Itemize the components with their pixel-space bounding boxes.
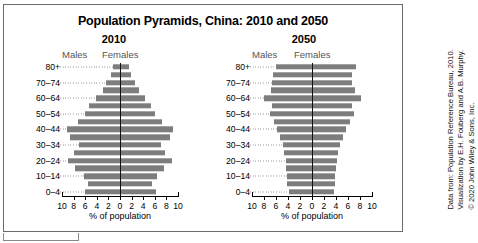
x-axis-tick [360,196,361,200]
bar-male [113,64,120,69]
source-credit: Data from: Population Reference Bureau, … [408,0,474,243]
age-group-label: 0–4 [46,187,60,197]
bar-male [286,166,312,171]
bar-female [312,174,335,179]
bar-female [120,150,165,155]
x-axis-tick [324,196,325,200]
age-label-row: 50–54 [204,110,252,118]
legend-females-2050: Females [294,49,330,60]
age-label-row: 10–14 [204,172,252,180]
x-axis-tick-label: 6 [346,201,351,211]
x-axis-tick-label: 2 [129,201,134,211]
page-corner-tab [3,233,79,241]
x-axis-tick-label: 0 [310,201,315,211]
credit-line-1: Data from: Population Reference Bureau, … [446,0,456,210]
bar-female [312,72,352,77]
bar-male [96,95,120,100]
bar-female [312,95,361,100]
bar-female [312,119,350,124]
x-axis-tick-label: 2 [322,201,327,211]
bar-female [120,103,151,108]
bar-male [70,135,120,140]
x-axis-tick [166,196,167,200]
age-label-row: 70–74 [10,79,62,87]
pyramid-panel-2050: 2050 Males Females 80+70–7460–6450–5440–… [204,33,400,229]
x-axis-tick-label: 8 [262,201,267,211]
x-axis-tick [143,196,144,200]
bar-male [264,95,312,100]
bar-male [79,142,120,147]
age-label-row: 30–34 [204,141,252,149]
bar-male [271,88,312,93]
sex-legend-2010: Males Females [10,49,206,61]
bar-female [312,103,352,108]
age-label-row: 70–74 [204,79,252,87]
x-axis-tick [74,196,75,200]
bar-female [312,127,346,132]
x-axis-tick-label: 8 [71,201,76,211]
age-axis-2050: 80+70–7460–6450–5440–4430–3420–2410–140–… [204,63,252,196]
bar-female [120,111,155,116]
bar-male [103,88,120,93]
bar-male [277,127,312,132]
bar-female [312,158,337,163]
panel-year-2050: 2050 [204,33,402,45]
bar-male [85,111,120,116]
x-axis-tick [372,192,373,197]
figure-frame: Population Pyramids, China: 2010 and 205… [3,4,403,232]
bar-male [272,80,312,85]
x-axis-tick [97,196,98,200]
age-label-row: 60–64 [204,94,252,102]
age-label-row: 0–4 [10,188,62,196]
age-label-row: 50–54 [10,110,62,118]
x-axis-tick-label: 4 [334,201,339,211]
age-label-row: 20–24 [204,157,252,165]
bar-female [312,80,352,85]
age-group-label: 0–4 [236,187,250,197]
bar-female [120,181,152,186]
age-label-row: 0–4 [204,188,252,196]
x-axis-tick-label: 10 [247,201,257,211]
x-axis-tick [300,196,301,200]
age-label-row: 80+ [204,63,252,71]
center-axis-2010 [120,63,121,196]
x-axis-tick-label: 6 [274,201,279,211]
x-axis-tick-label: 4 [94,201,99,211]
bar-female [120,72,131,77]
x-axis-tick-label: 8 [358,201,363,211]
bar-female [120,95,145,100]
x-axis-tick [155,196,156,200]
x-axis-tick-label: 4 [141,201,146,211]
bar-male [88,181,120,186]
bar-male [283,142,312,147]
x-axis-tick [288,196,289,200]
x-axis-tick-label: 2 [106,201,111,211]
bar-male [276,64,312,69]
x-axis-tick [120,196,121,200]
bar-female [312,150,338,155]
x-axis-tick-label: 10 [57,201,67,211]
x-axis-tick-label: 8 [164,201,169,211]
bar-female [312,64,356,69]
x-axis-tick [348,196,349,200]
age-axis-2010: 80+70–7460–6450–5440–4430–3420–2410–140–… [10,63,62,196]
bar-female [120,189,156,194]
x-axis-tick-label: 6 [152,201,157,211]
x-axis-tick [178,192,179,197]
bar-female [120,166,164,171]
bar-male [68,158,120,163]
bar-male [273,72,312,77]
bar-male [67,127,120,132]
center-axis-2050 [312,63,313,196]
bar-male [286,158,312,163]
bar-female [120,158,172,163]
bar-male [289,189,312,194]
age-label-row: 30–34 [10,141,62,149]
bar-male [85,189,120,194]
age-label-row: 60–64 [10,94,62,102]
bar-male [280,135,312,140]
bar-male [287,181,312,186]
bar-male [272,103,312,108]
x-axis-tick-label: 2 [298,201,303,211]
